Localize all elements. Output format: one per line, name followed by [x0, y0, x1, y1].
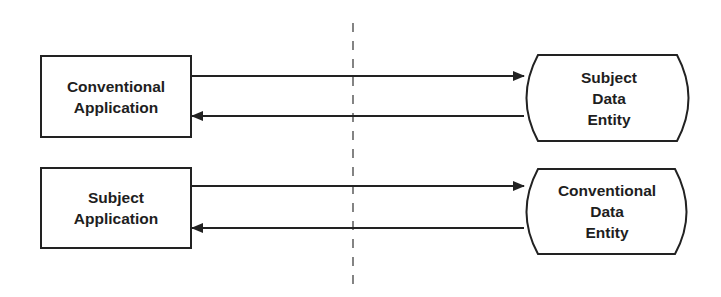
conventional-application-label: Conventional Application [41, 56, 191, 137]
label-line: Entity [585, 222, 628, 243]
label-line: Application [74, 97, 158, 118]
label-line: Application [74, 208, 158, 229]
label-line: Conventional [67, 76, 165, 97]
label-line: Data [590, 201, 624, 222]
subject-application-label: Subject Application [41, 168, 191, 248]
label-line: Entity [587, 109, 630, 130]
label-line: Subject [581, 67, 637, 88]
label-line: Data [592, 88, 626, 109]
label-line: Conventional [558, 180, 656, 201]
conventional-data-entity-label: Conventional Data Entity [528, 169, 686, 254]
label-line: Subject [88, 187, 144, 208]
subject-data-entity-label: Subject Data Entity [530, 55, 688, 141]
